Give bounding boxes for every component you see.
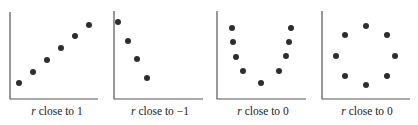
data-point — [288, 25, 294, 31]
data-point — [363, 82, 369, 88]
data-point — [72, 33, 78, 39]
axes-lines — [114, 11, 203, 99]
data-point — [115, 19, 121, 25]
scatter-panel-4 — [322, 11, 410, 99]
data-point — [233, 54, 239, 60]
scatter-panel-2 — [114, 11, 203, 99]
data-point — [258, 80, 264, 86]
data-point — [240, 68, 246, 74]
data-point — [342, 73, 348, 79]
data-point — [363, 23, 369, 29]
scatter-panel-3 — [217, 11, 306, 99]
data-point — [44, 57, 50, 63]
panel-4-caption: r close to 0 — [341, 105, 392, 117]
data-point — [229, 25, 235, 31]
data-point — [125, 38, 131, 44]
data-point — [230, 39, 236, 45]
data-point — [144, 75, 150, 81]
data-point — [134, 56, 140, 62]
scatter-panel-1 — [10, 12, 98, 99]
data-point — [16, 80, 22, 86]
data-point — [283, 53, 289, 59]
panel-1-caption: r close to 1 — [31, 105, 82, 117]
data-point — [333, 53, 339, 59]
data-point — [86, 22, 92, 28]
data-point — [384, 73, 390, 79]
data-point — [286, 39, 292, 45]
data-point — [58, 45, 64, 51]
panel-3-caption: r close to 0 — [237, 105, 288, 117]
data-point — [30, 69, 36, 75]
data-point — [384, 32, 390, 38]
axes-lines — [10, 12, 98, 99]
data-point — [392, 53, 398, 59]
data-point — [342, 32, 348, 38]
data-point — [276, 68, 282, 74]
panel-2-caption: r close to −1 — [131, 105, 189, 117]
